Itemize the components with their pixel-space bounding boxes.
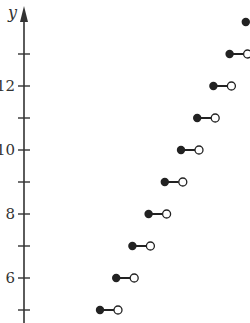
open-endpoint bbox=[195, 146, 203, 154]
y-axis-arrow-icon bbox=[20, 6, 28, 22]
closed-endpoint bbox=[193, 114, 201, 122]
closed-endpoint bbox=[242, 18, 250, 26]
closed-endpoint bbox=[96, 306, 104, 314]
y-tick-label: 8 bbox=[5, 205, 15, 223]
open-endpoint bbox=[163, 210, 171, 218]
open-endpoint bbox=[130, 274, 138, 282]
open-endpoint bbox=[146, 242, 154, 250]
closed-endpoint bbox=[209, 82, 217, 90]
open-endpoint bbox=[227, 82, 235, 90]
open-endpoint bbox=[179, 178, 187, 186]
closed-endpoint bbox=[144, 210, 152, 218]
open-endpoint bbox=[244, 50, 250, 58]
step-chart: y681012 bbox=[0, 0, 250, 323]
closed-endpoint bbox=[128, 242, 136, 250]
y-axis-label: y bbox=[7, 3, 18, 22]
closed-endpoint bbox=[225, 50, 233, 58]
open-endpoint bbox=[114, 306, 122, 314]
y-tick-label: 10 bbox=[0, 141, 15, 159]
closed-endpoint bbox=[177, 146, 185, 154]
closed-endpoint bbox=[112, 274, 120, 282]
open-endpoint bbox=[211, 114, 219, 122]
closed-endpoint bbox=[161, 178, 169, 186]
y-tick-label: 12 bbox=[0, 77, 15, 95]
y-tick-label: 6 bbox=[5, 269, 15, 287]
